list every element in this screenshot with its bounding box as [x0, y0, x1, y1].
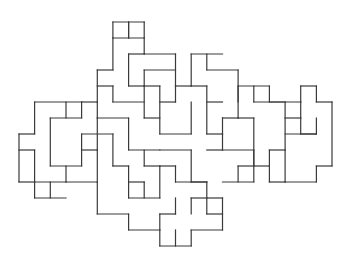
tiling-diagram — [0, 0, 349, 264]
